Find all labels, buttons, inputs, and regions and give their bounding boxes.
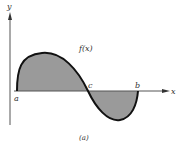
figure-caption: (a)	[79, 134, 89, 142]
y-axis-label: y	[6, 2, 12, 11]
y-axis-arrow-icon	[8, 12, 12, 20]
x-axis-label: x	[171, 87, 176, 96]
point-b-label: b	[135, 81, 140, 90]
x-axis-arrow-icon	[162, 89, 170, 93]
function-area-diagram: y x a c b f(x) (a)	[0, 0, 183, 150]
function-label: f(x)	[78, 44, 93, 53]
point-c-label: c	[88, 81, 93, 90]
point-a-label: a	[14, 94, 19, 103]
